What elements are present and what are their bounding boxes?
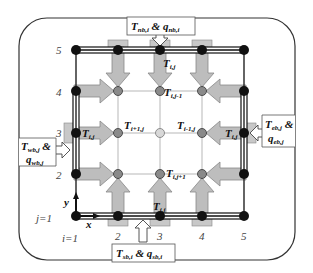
axes: y x — [62, 192, 100, 230]
svg-text:5: 5 — [241, 230, 247, 242]
grid-diagram: y x 2 3 4 5 2 3 4 5 j=1 i=1 Tnb,i & qnb,… — [0, 0, 313, 273]
svg-text:2: 2 — [115, 230, 121, 242]
svg-text:Ti,j-1: Ti,j-1 — [164, 86, 182, 100]
j-start-label: j=1 — [34, 212, 52, 224]
y-axis-label: y — [62, 196, 69, 208]
svg-text:3: 3 — [156, 230, 163, 242]
i-start-label: i=1 — [62, 232, 78, 244]
svg-text:4: 4 — [199, 230, 205, 242]
svg-text:4: 4 — [56, 86, 62, 98]
svg-text:Ti+1,j: Ti+1,j — [124, 119, 144, 133]
south-boundary-label: Tsb,i & qsb,i — [112, 244, 175, 262]
svg-text:Ti-1,j: Ti-1,j — [177, 119, 195, 133]
svg-text:5: 5 — [56, 44, 62, 56]
west-boundary-label: Twb,j & qwb,j — [19, 138, 56, 167]
col-numbers: 2 3 4 5 — [115, 230, 247, 242]
x-axis-label: x — [85, 218, 92, 230]
center-node — [156, 129, 165, 138]
svg-text:Ti,j: Ti,j — [163, 57, 175, 71]
svg-text:2: 2 — [56, 169, 62, 181]
north-boundary-label: Tnb,i & qnb,i — [127, 17, 195, 35]
east-boundary-label: Teb,j & qeb,j — [262, 115, 295, 147]
svg-text:Ti,j+1: Ti,j+1 — [166, 167, 186, 181]
svg-text:3: 3 — [55, 127, 62, 139]
